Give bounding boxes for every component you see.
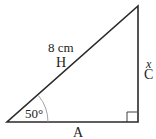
hypotenuse-length-label: 8 cm (48, 40, 74, 55)
triangle-diagram: 50° 8 cm H x C A (0, 0, 156, 139)
right-angle-marker (127, 112, 137, 122)
adjacent-label: A (73, 125, 84, 139)
hypotenuse-label: H (56, 55, 66, 70)
triangle (7, 6, 138, 122)
opposite-label: C (144, 67, 153, 82)
angle-label: 50° (25, 106, 43, 121)
